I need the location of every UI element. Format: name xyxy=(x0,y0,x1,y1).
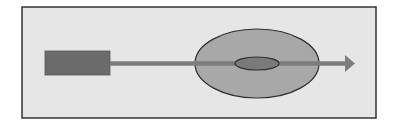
schematic-diagram xyxy=(0,0,396,126)
source-block xyxy=(45,51,110,75)
inner-ellipse xyxy=(235,57,279,70)
diagram-canvas xyxy=(0,0,396,126)
